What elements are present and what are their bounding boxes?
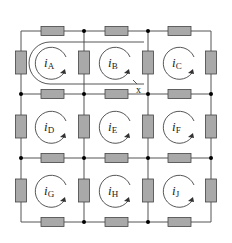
resistor <box>16 51 27 74</box>
resistor <box>168 90 191 99</box>
label-iC: iC <box>172 55 182 71</box>
resistor <box>16 115 27 138</box>
mesh-labels: iA iB iC iD iE iF iG iH iJ <box>44 55 182 199</box>
resistor <box>105 90 128 99</box>
resistor <box>143 115 154 138</box>
resistor <box>168 154 191 163</box>
label-iH: iH <box>108 183 119 199</box>
resistor <box>79 179 90 202</box>
resistor <box>41 218 64 227</box>
resistor <box>143 51 154 74</box>
resistor <box>16 179 27 202</box>
resistor <box>41 90 64 99</box>
resistor <box>168 27 191 36</box>
resistor <box>79 115 90 138</box>
resistor <box>168 218 191 227</box>
resistor <box>105 218 128 227</box>
supermesh-label-x: x <box>136 84 141 95</box>
label-iA: iA <box>44 55 55 71</box>
resistor <box>105 27 128 36</box>
resistor <box>206 51 217 74</box>
label-iB: iB <box>108 55 118 71</box>
resistor <box>143 179 154 202</box>
resistor <box>41 154 64 163</box>
resistor <box>206 179 217 202</box>
label-iF: iF <box>172 119 181 135</box>
circuit-diagram: iA iB iC iD iE iF iG iH iJ x <box>0 0 232 243</box>
resistor <box>79 51 90 74</box>
resistor <box>105 154 128 163</box>
label-iE: iE <box>108 119 118 135</box>
resistor <box>41 27 64 36</box>
label-iJ: iJ <box>172 183 180 199</box>
label-iG: iG <box>44 183 55 199</box>
resistor <box>206 115 217 138</box>
label-iD: iD <box>44 119 55 135</box>
